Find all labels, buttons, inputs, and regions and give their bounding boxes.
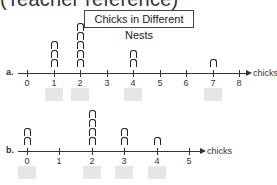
chick-mark-icon xyxy=(130,59,137,67)
tick-mark xyxy=(189,148,190,155)
chick-mark-icon xyxy=(77,32,84,40)
chart-title: Chicks in Different Nests xyxy=(84,10,194,28)
answer-blank[interactable] xyxy=(124,88,142,101)
tick-label: 3 xyxy=(101,78,113,88)
plot-a-axis xyxy=(18,73,246,74)
tick-mark xyxy=(124,148,125,155)
plot-b-label: b. xyxy=(6,145,14,155)
plot-a-label: a. xyxy=(6,67,14,77)
chick-mark-icon xyxy=(77,23,84,31)
tick-mark xyxy=(27,70,28,77)
tick-label: 2 xyxy=(86,156,98,166)
tick-label: 8 xyxy=(233,78,245,88)
tick-label: 1 xyxy=(48,78,60,88)
chick-mark-icon xyxy=(24,137,31,145)
tick-mark xyxy=(80,70,81,77)
chick-mark-icon xyxy=(77,50,84,58)
tick-label: 0 xyxy=(21,78,33,88)
plot-b-arrow-icon xyxy=(200,148,206,154)
chick-mark-icon xyxy=(121,128,128,136)
chick-mark-icon xyxy=(51,59,58,67)
tick-label: 7 xyxy=(207,78,219,88)
tick-mark xyxy=(213,70,214,77)
answer-blank[interactable] xyxy=(204,88,222,101)
tick-label: 5 xyxy=(183,156,195,166)
tick-mark xyxy=(186,70,187,77)
tick-label: 1 xyxy=(53,156,65,166)
tick-label: 4 xyxy=(127,78,139,88)
tick-mark xyxy=(160,70,161,77)
tick-mark xyxy=(239,70,240,77)
tick-mark xyxy=(54,70,55,77)
chick-mark-icon xyxy=(154,137,161,145)
chick-mark-icon xyxy=(89,119,96,127)
answer-blank[interactable] xyxy=(71,88,89,101)
tick-mark xyxy=(59,148,60,155)
chick-mark-icon xyxy=(51,50,58,58)
chick-mark-icon xyxy=(121,137,128,145)
chick-mark-icon xyxy=(77,41,84,49)
plot-a-unit-label: chicks xyxy=(253,68,277,78)
answer-blank[interactable] xyxy=(18,166,36,179)
plot-a-arrow-icon xyxy=(246,70,252,76)
answer-blank[interactable] xyxy=(115,166,133,179)
plot-b-axis xyxy=(18,151,200,152)
tick-mark xyxy=(92,148,93,155)
answer-blank[interactable] xyxy=(148,166,166,179)
chick-mark-icon xyxy=(89,110,96,118)
tick-label: 5 xyxy=(154,78,166,88)
tick-label: 6 xyxy=(180,78,192,88)
chick-mark-icon xyxy=(89,137,96,145)
chick-mark-icon xyxy=(77,59,84,67)
chick-mark-icon xyxy=(210,59,217,67)
chick-mark-icon xyxy=(24,128,31,136)
tick-mark xyxy=(107,70,108,77)
chick-mark-icon xyxy=(51,41,58,49)
tick-label: 4 xyxy=(151,156,163,166)
answer-blank[interactable] xyxy=(83,166,101,179)
tick-mark xyxy=(133,70,134,77)
tick-label: 0 xyxy=(21,156,33,166)
tick-label: 3 xyxy=(118,156,130,166)
chick-mark-icon xyxy=(89,128,96,136)
tick-label: 2 xyxy=(74,78,86,88)
chick-mark-icon xyxy=(130,50,137,58)
answer-blank[interactable] xyxy=(45,88,63,101)
tick-mark xyxy=(157,148,158,155)
plot-b-unit-label: chicks xyxy=(207,146,232,156)
tick-mark xyxy=(27,148,28,155)
